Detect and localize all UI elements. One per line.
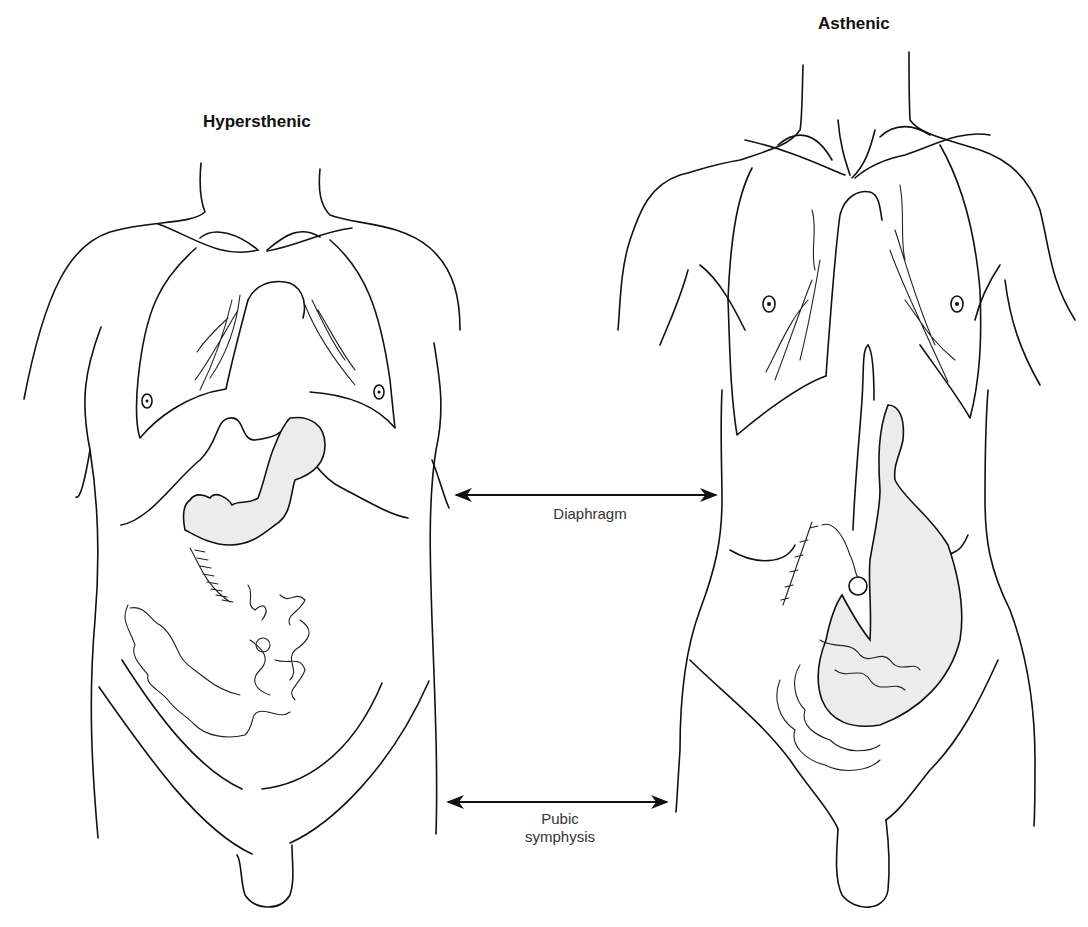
- asthenic-body: [618, 52, 1075, 907]
- anatomy-diagram: [0, 0, 1088, 927]
- hypersthenic-body: [24, 163, 460, 907]
